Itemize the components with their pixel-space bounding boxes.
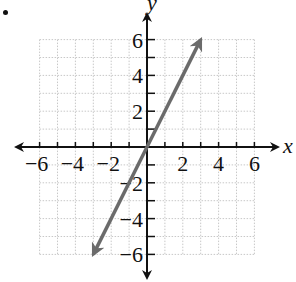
- y-axis-label: y: [145, 0, 157, 15]
- x-tick-label: 6: [249, 151, 260, 176]
- x-tick-label: 4: [213, 151, 224, 176]
- x-tick-label: 2: [177, 151, 188, 176]
- x-tick-label: −4: [61, 151, 84, 176]
- x-tick-label: −2: [96, 151, 119, 176]
- y-tick-label: −6: [120, 242, 143, 267]
- y-tick-label: −4: [120, 207, 143, 232]
- y-tick-label: 4: [132, 63, 143, 88]
- x-axis-label: x: [282, 133, 293, 158]
- coordinate-plane: −6−4−2246642−2−4−6xy: [0, 0, 296, 282]
- tick-labels: −6−4−2246642−2−4−6xy: [25, 0, 293, 267]
- x-tick-label: −6: [25, 151, 48, 176]
- y-tick-label: 6: [132, 28, 143, 53]
- y-tick-label: 2: [132, 99, 143, 124]
